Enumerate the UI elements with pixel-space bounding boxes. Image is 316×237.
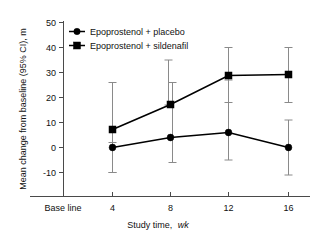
legend-item-placebo: Epoprostenol + placebo <box>69 27 185 37</box>
y-tick-label: 40 <box>46 43 56 53</box>
markers-placebo <box>109 129 292 151</box>
legend-label-sildenafil: Epoprostenol + sildenafil <box>90 41 188 51</box>
svg-text:Study time, wk: Study time, wk <box>127 220 189 230</box>
line-chart: 50 40 30 20 10 0 -10 Base line 4 8 12 16… <box>0 0 316 237</box>
legend-square-icon <box>74 42 81 49</box>
y-axis-title: Mean change from baseline (95% CI), m <box>18 28 28 190</box>
x-tick-labels: Base line 4 8 12 16 <box>44 203 293 213</box>
y-tick-label: 20 <box>46 93 56 103</box>
x-tick-label: 16 <box>283 203 293 213</box>
y-tick-label: 50 <box>46 18 56 28</box>
chart-legend: Epoprostenol + placebo Epoprostenol + si… <box>69 27 188 51</box>
y-tick-label: 30 <box>46 68 56 78</box>
x-tick-label: 12 <box>223 203 233 213</box>
x-axis-title: Study time, wk <box>127 220 189 230</box>
chart-figure: 50 40 30 20 10 0 -10 Base line 4 8 12 16… <box>0 0 316 237</box>
y-tick-labels: 50 40 30 20 10 0 -10 <box>43 18 56 178</box>
errorbars-placebo <box>109 80 293 175</box>
x-tick-label: 8 <box>168 203 173 213</box>
errorbars-sildenafil <box>109 48 293 173</box>
x-tick-label-baseline: Base line <box>44 203 81 213</box>
series-line-sildenafil <box>113 75 289 130</box>
series-line-placebo <box>113 133 289 148</box>
y-tick-label: 10 <box>46 118 56 128</box>
legend-item-sildenafil: Epoprostenol + sildenafil <box>69 41 188 51</box>
legend-circle-icon <box>74 28 80 34</box>
y-tick-label: 0 <box>51 143 56 153</box>
x-axis-ticks <box>113 192 289 197</box>
legend-label-placebo: Epoprostenol + placebo <box>90 27 185 37</box>
x-axis-title-text: Study time, <box>127 220 172 230</box>
markers-sildenafil <box>109 71 292 133</box>
y-axis-ticks <box>59 23 64 173</box>
y-tick-label: -10 <box>43 168 56 178</box>
x-axis-title-unit: wk <box>178 220 189 230</box>
x-tick-label: 4 <box>110 203 115 213</box>
